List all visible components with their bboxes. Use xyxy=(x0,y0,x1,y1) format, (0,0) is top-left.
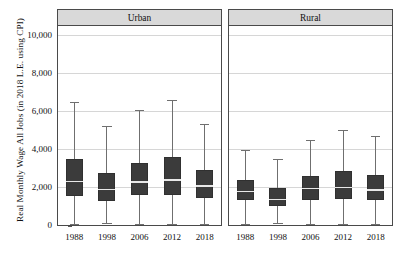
y-tick-label: 6,000 xyxy=(12,107,52,116)
median-line xyxy=(98,189,115,191)
y-tick-label: 2,000 xyxy=(12,183,52,192)
x-tick-label: 2012 xyxy=(163,232,181,242)
whisker-cap-upper xyxy=(306,140,315,141)
median-line xyxy=(335,187,352,189)
whisker-cap-upper xyxy=(200,124,209,125)
median-line xyxy=(367,189,384,191)
whisker-cap-upper xyxy=(70,102,79,103)
panel-header-urban: Urban xyxy=(57,9,222,26)
whisker-cap-lower xyxy=(273,223,282,224)
box-plot-item xyxy=(294,26,327,225)
box-plot-item xyxy=(327,26,360,225)
whisker-cap-lower xyxy=(241,224,250,225)
whisker-cap-upper xyxy=(167,100,176,101)
y-tick-label: 0 xyxy=(12,221,52,230)
x-tick-label: 2018 xyxy=(196,232,214,242)
x-axis-urban: 19881998200620122018 xyxy=(57,226,222,249)
x-tick-label: 1998 xyxy=(269,232,287,242)
whisker-cap-upper xyxy=(102,126,111,127)
plot-area-rural xyxy=(228,26,393,226)
box-plot-item xyxy=(229,26,262,225)
box-iqr xyxy=(131,163,148,195)
boxplot-figure: Real Monthly Wage All Jobs (in 2018 L.E.… xyxy=(0,0,411,271)
y-tick-label: 10,000 xyxy=(12,31,52,40)
box-iqr xyxy=(164,157,181,195)
median-line xyxy=(237,191,254,193)
whisker-cap-upper xyxy=(135,110,144,111)
whisker-cap-lower xyxy=(200,224,209,225)
whisker-cap-lower xyxy=(338,224,347,225)
panel-urban: Urban 19881998200620122018 xyxy=(57,9,222,249)
median-line xyxy=(164,179,181,181)
whisker-cap-lower xyxy=(70,224,79,225)
median-line xyxy=(66,181,83,183)
median-line xyxy=(269,199,286,201)
x-axis-rural: 19881998200620122018 xyxy=(228,226,393,249)
median-line xyxy=(302,188,319,190)
panel-rural: Rural 19881998200620122018 xyxy=(228,9,393,249)
box-iqr xyxy=(196,170,213,198)
whisker-cap-upper xyxy=(241,150,250,151)
median-line xyxy=(131,181,148,183)
box-iqr xyxy=(269,188,286,206)
y-tick-label: 8,000 xyxy=(12,69,52,78)
whisker-cap-upper xyxy=(273,159,282,160)
y-tick-label: 4,000 xyxy=(12,145,52,154)
y-axis-tick-labels: 02,0004,0006,0008,00010,000 xyxy=(16,0,56,271)
box-iqr xyxy=(98,173,115,200)
box-plot-item xyxy=(156,26,189,225)
x-tick-label: 1998 xyxy=(98,232,116,242)
box-plot-item xyxy=(262,26,295,225)
whisker-cap-lower xyxy=(167,224,176,225)
box-plot-item xyxy=(359,26,392,225)
box-iqr xyxy=(335,171,352,198)
x-tick-label: 1988 xyxy=(65,232,83,242)
x-tick-label: 2018 xyxy=(367,232,385,242)
whisker-cap-lower xyxy=(102,223,111,224)
median-line xyxy=(196,185,213,187)
x-tick-label: 2006 xyxy=(131,232,149,242)
x-tick-label: 2012 xyxy=(334,232,352,242)
x-tick-label: 1988 xyxy=(236,232,254,242)
box-plot-item xyxy=(91,26,124,225)
box-iqr xyxy=(367,175,384,200)
whisker-cap-lower xyxy=(371,224,380,225)
panel-header-rural: Rural xyxy=(228,9,393,26)
plot-area-urban xyxy=(57,26,222,226)
box-plot-item xyxy=(188,26,221,225)
whisker-cap-upper xyxy=(371,136,380,137)
box-plot-item xyxy=(58,26,91,225)
whisker-cap-lower xyxy=(135,224,144,225)
x-tick-label: 2006 xyxy=(302,232,320,242)
whisker-cap-lower xyxy=(306,224,315,225)
box-plot-item xyxy=(123,26,156,225)
whisker-cap-upper xyxy=(338,130,347,131)
box-iqr xyxy=(66,159,83,196)
